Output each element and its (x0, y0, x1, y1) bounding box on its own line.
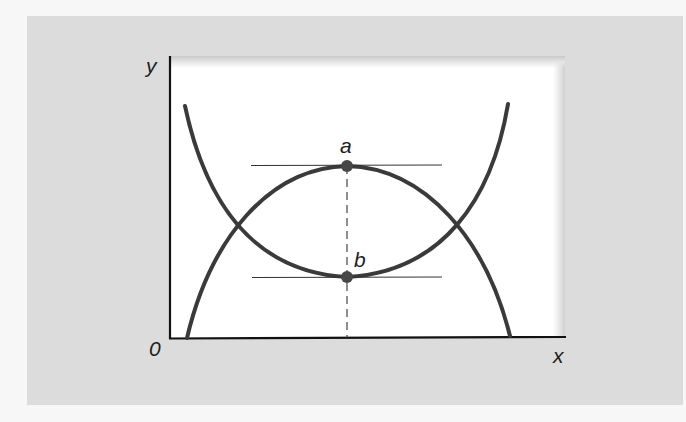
x-axis-label: x (552, 344, 565, 367)
x-axis (169, 337, 566, 339)
origin-label: 0 (149, 337, 161, 360)
label-b: b (354, 248, 366, 271)
point-a (341, 160, 353, 172)
point-b (341, 271, 353, 283)
y-axis-label: y (144, 54, 158, 77)
label-a: a (340, 134, 352, 157)
diagram-svg: a b y x 0 (0, 0, 686, 422)
inverted-u-curve (187, 166, 510, 338)
